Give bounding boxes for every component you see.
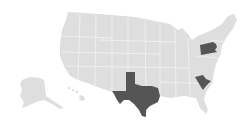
us-map: [0, 0, 249, 132]
us-map-svg: [0, 0, 249, 132]
alaska: [20, 77, 64, 109]
hawaii: [68, 87, 85, 101]
